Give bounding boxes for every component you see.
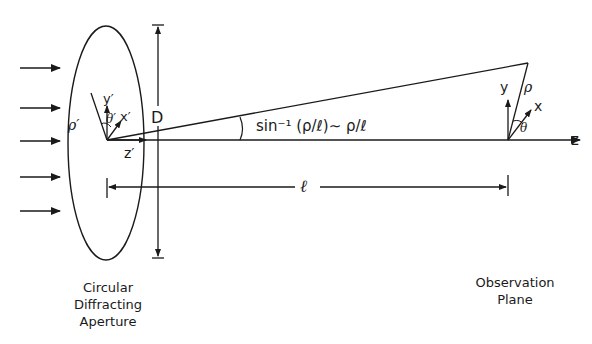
- aperture-ellipse: [68, 26, 144, 260]
- x-axis-label: x: [534, 99, 542, 113]
- y-axis-label: y: [500, 80, 508, 94]
- diameter-label: D: [151, 110, 163, 126]
- incident-wave-arrows: [20, 68, 60, 211]
- aperture-caption-line: Aperture: [58, 313, 158, 330]
- aperture-caption: Circular Diffracting Aperture: [58, 279, 158, 330]
- observation-caption: Observation Plane: [465, 274, 565, 308]
- rho-prime-label: ρ′: [68, 118, 79, 132]
- rho-label: ρ: [524, 80, 532, 94]
- aperture-caption-line: Diffracting: [58, 296, 158, 313]
- diameter-dimension: [152, 25, 164, 258]
- distance-dimension: [107, 175, 508, 198]
- z-prime-label: z′: [124, 146, 135, 160]
- aperture-caption-line: Circular: [58, 279, 158, 296]
- z-axis-label: z: [571, 133, 579, 148]
- observation-caption-line: Observation: [465, 274, 565, 291]
- theta-label: θ: [520, 122, 527, 134]
- theta-prime-label: θ′: [106, 113, 116, 125]
- y-prime-label: y′: [103, 92, 114, 105]
- distance-label: ℓ: [300, 178, 307, 195]
- angle-arc: [240, 117, 243, 140]
- x-prime-label: x′: [120, 110, 131, 123]
- observation-caption-line: Plane: [465, 291, 565, 308]
- angle-formula-label: sin⁻¹ (ρ/ℓ)∼ ρ/ℓ: [256, 119, 367, 134]
